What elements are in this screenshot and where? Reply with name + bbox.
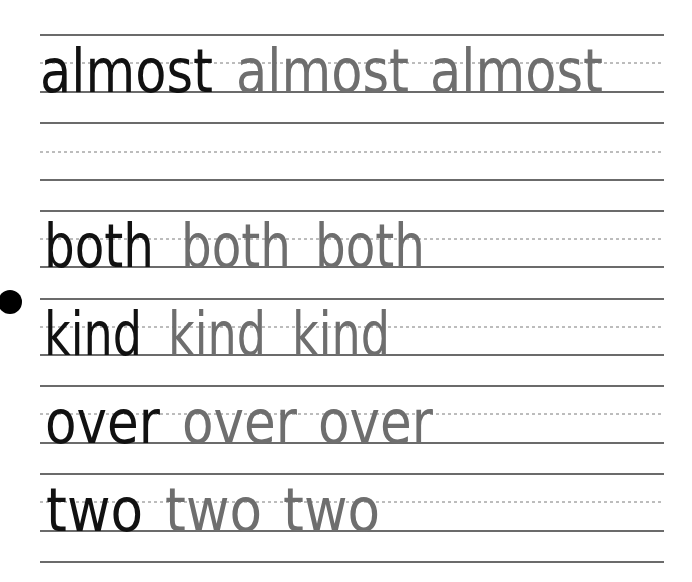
model-word: over xyxy=(45,387,160,457)
model-word: two xyxy=(46,475,143,545)
trace-word: almost xyxy=(430,36,603,106)
bullet-dot xyxy=(0,290,22,314)
model-word: kind xyxy=(44,299,142,369)
trace-word: kind xyxy=(168,299,266,369)
trace-word: over xyxy=(182,387,297,457)
trace-word: both xyxy=(315,211,425,281)
model-word: both xyxy=(44,211,154,281)
model-word: almost xyxy=(40,36,213,106)
trace-word: over xyxy=(318,387,433,457)
trace-word: almost xyxy=(236,36,409,106)
trace-word: two xyxy=(283,475,380,545)
trace-word: two xyxy=(165,475,262,545)
handwriting-worksheet: almostalmostalmostbothbothbothkindkindki… xyxy=(0,0,692,582)
trace-word: both xyxy=(181,211,291,281)
trace-word: kind xyxy=(292,299,390,369)
